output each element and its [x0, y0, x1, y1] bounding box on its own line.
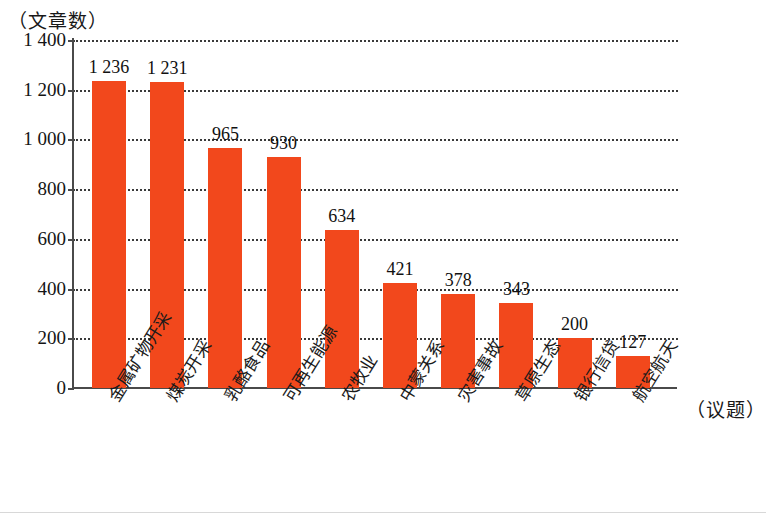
bar-value-label: 930 — [270, 133, 297, 154]
bar: 1 236 — [92, 81, 126, 388]
bar: 965 — [208, 148, 242, 388]
bar-value-label: 343 — [503, 279, 530, 300]
y-axis-tick — [68, 388, 74, 390]
bar-value-label: 378 — [445, 270, 472, 291]
gridline — [73, 40, 678, 42]
y-axis-tick — [68, 338, 74, 340]
y-axis-tick-label: 400 — [38, 278, 67, 300]
y-axis-tick — [68, 40, 74, 42]
page-edge-line — [0, 512, 766, 513]
y-axis-tick-label: 1 200 — [23, 79, 66, 101]
bar-value-label: 127 — [619, 332, 646, 353]
bar: 930 — [267, 157, 301, 388]
y-axis-tick-labels: 02004006008001 0001 2001 400 — [0, 40, 66, 388]
y-axis-tick — [68, 239, 74, 241]
y-axis-tick-label: 800 — [38, 178, 67, 200]
bar-value-label: 1 236 — [89, 57, 130, 78]
y-axis-tick-label: 1 000 — [23, 128, 66, 150]
y-axis-tick-label: 0 — [57, 377, 67, 399]
y-axis-tick — [68, 289, 74, 291]
bar-chart: （文章数） （议题） 02004006008001 0001 2001 400 … — [0, 0, 766, 523]
bar-value-label: 1 231 — [147, 58, 188, 79]
y-axis-tick — [68, 139, 74, 141]
x-axis-title: （议题） — [686, 395, 766, 422]
y-axis-tick-label: 200 — [38, 327, 67, 349]
y-axis-tick — [68, 189, 74, 191]
bar-value-label: 421 — [387, 259, 414, 280]
bar-value-label: 634 — [328, 206, 355, 227]
bar-value-label: 200 — [561, 314, 588, 335]
y-axis-tick-label: 600 — [38, 228, 67, 250]
bar-value-label: 965 — [212, 124, 239, 145]
y-axis-tick-label: 1 400 — [23, 29, 66, 51]
y-axis-tick — [68, 90, 74, 92]
